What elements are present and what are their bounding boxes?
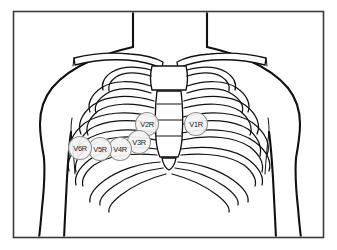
manubrium (151, 66, 188, 90)
right-pectoral-edge (268, 118, 269, 132)
left-pectoral-edge (71, 118, 72, 132)
electrode-label: V2R (140, 120, 153, 129)
electrode-v1r[interactable]: V1R (185, 113, 208, 136)
electrode-label: V5R (93, 145, 106, 154)
left-arm-outer-edge (39, 158, 44, 238)
left-acromial-end (73, 58, 74, 66)
left-deltoid-contour (40, 88, 52, 158)
sternum-body (155, 91, 182, 157)
electrode-label: V4R (113, 145, 126, 154)
electrode-label: V3R (132, 138, 145, 147)
electrode-label: V6R (73, 144, 86, 153)
left-clavicle (74, 53, 163, 68)
right-arm-outer-edge (296, 158, 301, 238)
right-arm-inner-edge (269, 132, 276, 238)
electrode-v6r[interactable]: V6R (69, 137, 92, 160)
figure-root: V1RV2RV3RV4RV5RV6R (0, 0, 337, 250)
right-deltoid-contour (288, 88, 300, 158)
chest-anatomy-diagram: V1RV2RV3RV4RV5RV6R (0, 0, 337, 250)
right-acromial-end (266, 58, 267, 66)
electrode-label: V1R (189, 120, 202, 129)
xiphoid-process (162, 158, 176, 170)
right-clavicle (177, 53, 266, 68)
